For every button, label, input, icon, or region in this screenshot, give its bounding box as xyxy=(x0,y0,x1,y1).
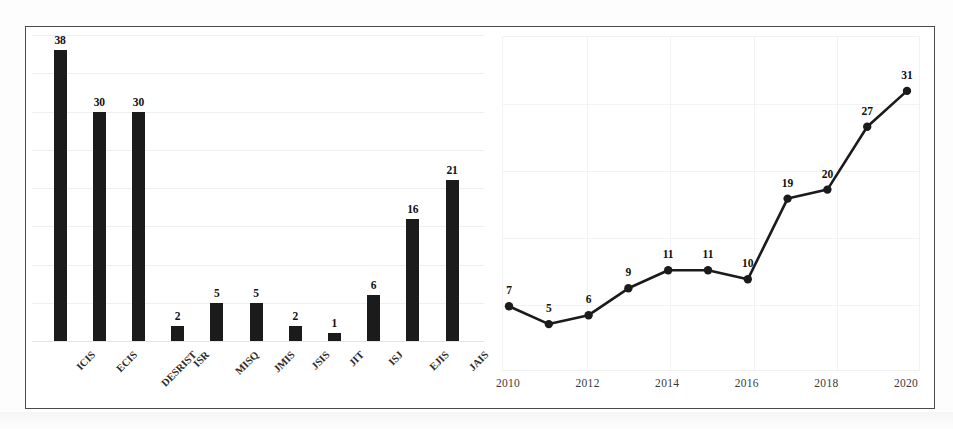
bar-chart-bar xyxy=(367,295,380,341)
line-chart-value-label: 20 xyxy=(810,168,844,180)
line-chart-marker xyxy=(664,266,672,274)
bar-chart-value-label: 2 xyxy=(162,310,194,322)
bar-chart-category-label: JSIS xyxy=(309,349,332,372)
bar-chart-value-label: 5 xyxy=(201,287,233,299)
line-chart-marker xyxy=(624,284,632,292)
figure-page: 3830302552161621 ICISECISDESRISTISRMISQJ… xyxy=(0,0,953,429)
bar-chart-bar xyxy=(328,333,341,341)
line-chart-year-label: 2020 xyxy=(884,377,928,389)
bar-chart-value-label: 38 xyxy=(44,34,76,46)
line-chart-value-label: 11 xyxy=(691,248,725,260)
bar-chart-value-label: 1 xyxy=(318,317,350,329)
bar-chart-value-label: 5 xyxy=(240,287,272,299)
bar-chart-bar xyxy=(93,112,106,342)
bar-chart-bar xyxy=(171,326,184,341)
line-chart-marker xyxy=(823,185,831,193)
bar-chart-category-label: ICIS xyxy=(74,349,97,372)
bar-chart-value-label: 21 xyxy=(436,164,468,176)
line-chart-marker xyxy=(744,275,752,283)
bar-chart-bar xyxy=(250,303,263,341)
bar-chart-axis-line xyxy=(32,341,484,342)
bar-chart-category-label: EJIS xyxy=(427,349,450,372)
bar-chart-value-label: 16 xyxy=(397,203,429,215)
line-chart-marker xyxy=(863,123,871,131)
line-chart-value-label: 27 xyxy=(850,105,884,117)
line-chart-plot-area: 756911111019202731 xyxy=(502,36,920,371)
line-chart-marker xyxy=(783,194,791,202)
line-chart-marker xyxy=(903,87,911,95)
bar-chart-value-label: 30 xyxy=(83,96,115,108)
line-chart-marker xyxy=(545,320,553,328)
bar-chart-category-label: JMIS xyxy=(271,349,297,375)
bar-chart-bar xyxy=(210,303,223,341)
line-chart-value-label: 9 xyxy=(611,266,645,278)
line-chart-marker xyxy=(584,311,592,319)
line-chart-value-label: 11 xyxy=(651,248,685,260)
bar-chart-gridline xyxy=(32,35,484,36)
line-chart-value-label: 10 xyxy=(731,257,765,269)
bar-chart-category-label: MISQ xyxy=(233,349,261,377)
bar-chart-bar xyxy=(446,180,459,341)
bar-chart-panel: 3830302552161621 ICISECISDESRISTISRMISQJ… xyxy=(26,27,488,408)
bar-chart-bar xyxy=(54,50,67,341)
bar-chart-plot-area: 3830302552161621 xyxy=(32,35,484,341)
bar-chart-gridline xyxy=(32,73,484,74)
line-chart-year-label: 2014 xyxy=(645,377,689,389)
line-chart-value-label: 5 xyxy=(532,302,566,314)
line-chart-path xyxy=(509,91,907,324)
bar-chart-category-label: JIT xyxy=(347,349,366,368)
line-chart-value-label: 31 xyxy=(890,69,924,81)
bar-chart-category-label: DESRIST xyxy=(160,349,200,389)
line-chart-year-label: 2016 xyxy=(725,377,769,389)
line-chart-panel: 756911111019202731 201020122014201620182… xyxy=(488,27,934,408)
line-chart-year-label: 2012 xyxy=(566,377,610,389)
bar-chart-value-label: 6 xyxy=(358,279,390,291)
bar-chart-category-label: JAIS xyxy=(467,349,491,373)
line-chart-value-label: 6 xyxy=(572,293,606,305)
line-chart-marker xyxy=(704,266,712,274)
line-chart-value-label: 19 xyxy=(771,177,805,189)
bar-chart-value-label: 30 xyxy=(122,96,154,108)
bar-chart-bar xyxy=(132,112,145,342)
line-chart-year-label: 2010 xyxy=(486,377,530,389)
line-chart-year-label: 2018 xyxy=(804,377,848,389)
scan-artifact-band xyxy=(0,412,953,429)
figure-frame: 3830302552161621 ICISECISDESRISTISRMISQJ… xyxy=(25,26,935,409)
line-chart-value-label: 7 xyxy=(492,284,526,296)
bar-chart-bar xyxy=(289,326,302,341)
line-chart-markers xyxy=(505,87,911,329)
line-chart-series xyxy=(503,37,921,372)
bar-chart-value-label: 2 xyxy=(279,310,311,322)
line-chart-marker xyxy=(505,302,513,310)
bar-chart-category-label: ISJ xyxy=(386,349,405,368)
bar-chart-category-label: ECIS xyxy=(114,349,139,374)
bar-chart-bar xyxy=(406,219,419,341)
